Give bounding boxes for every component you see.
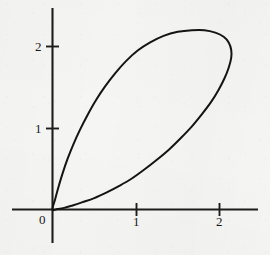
loop-curve-path [52,30,231,210]
x-tick-label-1: 1 [133,215,140,228]
y-tick-label-2: 2 [35,40,42,53]
plot-figure: 0 1 2 1 2 [0,0,270,255]
x-tick-label-2: 2 [216,215,223,228]
y-tick-label-1: 1 [35,122,42,135]
origin-label: 0 [39,213,46,226]
